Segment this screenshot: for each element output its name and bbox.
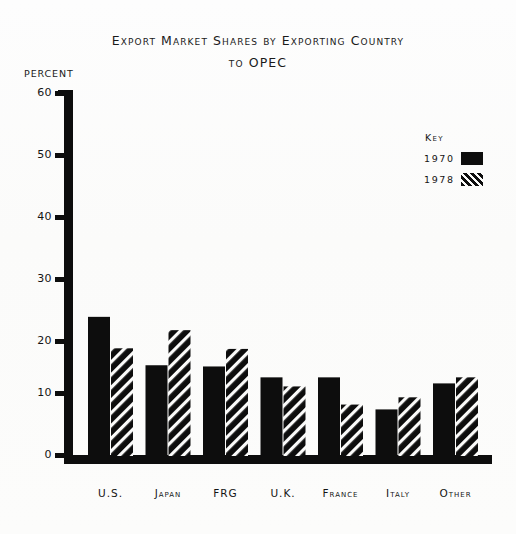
y-tick-label-40: 40	[22, 210, 52, 223]
bar-japan-1970	[146, 365, 168, 456]
bar-italy-1978	[399, 397, 421, 456]
y-tick-label-50: 50	[22, 148, 52, 161]
x-axis-label-other: Other	[419, 487, 492, 499]
legend-title: Key	[424, 132, 483, 143]
y-tick-60	[55, 91, 65, 96]
y-tick-50	[55, 153, 65, 158]
y-tick-40	[55, 215, 65, 220]
y-tick-30	[55, 277, 65, 282]
bar-other-1970	[433, 383, 455, 456]
legend-item-1978: 1978	[424, 173, 483, 186]
bar-us-1978	[111, 348, 133, 456]
bar-frg-1970	[203, 366, 225, 456]
y-tick-0	[55, 453, 65, 458]
bar-france-1970	[318, 377, 340, 456]
legend-swatch-hatch-icon	[461, 173, 483, 186]
bar-japan-1978	[169, 330, 191, 456]
legend-item-1970: 1970	[424, 152, 483, 165]
bar-us-1970	[88, 317, 110, 456]
legend-label-1978: 1978	[424, 174, 455, 185]
plot-area: 60 50 40 30 20 10 0 U.S.JapanFRGU.K.Fran…	[0, 0, 516, 534]
y-tick-label-30: 30	[22, 272, 52, 285]
y-tick-label-20: 20	[22, 334, 52, 347]
chart-page: Export Market Shares by Exporting Countr…	[0, 0, 516, 534]
y-tick-20	[55, 339, 65, 344]
y-tick-label-0: 0	[22, 448, 52, 461]
bar-italy-1970	[376, 409, 398, 456]
x-axis-baseline	[64, 455, 492, 464]
y-axis-line	[64, 90, 73, 458]
bar-uk-1978	[284, 386, 306, 456]
legend: Key 1970 1978	[424, 132, 483, 194]
y-tick-label-10: 10	[22, 386, 52, 399]
bars-group	[88, 317, 478, 456]
chart-canvas	[0, 0, 516, 534]
legend-label-1970: 1970	[424, 153, 455, 164]
legend-swatch-solid-icon	[461, 152, 483, 165]
y-tick-label-60: 60	[22, 86, 52, 99]
y-tick-10	[55, 391, 65, 396]
bar-other-1978	[456, 377, 478, 456]
bar-france-1978	[341, 405, 363, 456]
bar-uk-1970	[261, 377, 283, 456]
bar-frg-1978	[226, 349, 248, 456]
